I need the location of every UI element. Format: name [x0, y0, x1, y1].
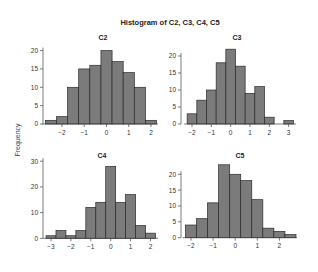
y-tick-label: 10	[169, 86, 177, 93]
x-tick-label: 1	[127, 129, 131, 136]
panel-c3: C305101520−2−10123	[169, 34, 296, 136]
histogram-bar	[264, 117, 274, 124]
x-tick-label: −2	[187, 242, 195, 249]
histogram-bar	[207, 90, 217, 124]
histogram-bar	[101, 51, 112, 124]
histogram-bar	[76, 231, 86, 239]
histogram-bar	[252, 200, 263, 238]
panel-c5: C505101520−2−1012	[169, 152, 297, 249]
x-tick-label: −1	[209, 242, 217, 249]
x-tick-label: 0	[229, 129, 233, 136]
histogram-bar	[146, 233, 156, 238]
y-tick-label: 20	[31, 47, 39, 54]
x-tick-label: −2	[67, 243, 75, 250]
histogram-bar	[241, 181, 252, 238]
x-tick-label: 2	[278, 242, 282, 249]
y-tick-label: 20	[169, 52, 177, 59]
y-tick-label: 10	[31, 84, 39, 91]
histogram-bar	[86, 207, 96, 238]
y-tick-label: 15	[169, 69, 177, 76]
y-tick-label: 10	[31, 209, 39, 216]
y-tick-label: 30	[31, 158, 39, 165]
y-tick-label: 0	[34, 235, 38, 242]
panel-title: C5	[236, 152, 245, 159]
x-tick-label: −1	[87, 243, 95, 250]
histogram-bar	[56, 231, 66, 239]
y-tick-label: 0	[172, 120, 176, 127]
x-tick-label: 2	[149, 129, 153, 136]
x-tick-label: −1	[81, 129, 89, 136]
histogram-bar	[197, 100, 207, 124]
histogram-bar	[96, 202, 106, 238]
histogram-bar	[284, 121, 294, 124]
x-tick-label: 0	[109, 243, 113, 250]
panel-c4: C40102030−3−2−1012	[31, 152, 158, 250]
histogram-bar	[79, 69, 90, 124]
histogram-bar	[185, 225, 196, 238]
histogram-grid: Histogram of C2, C3, C4, C5 Frequency C2…	[0, 0, 318, 272]
x-tick-label: 1	[255, 242, 259, 249]
histogram-bar	[274, 231, 285, 237]
histogram-bar	[219, 165, 230, 238]
figure-title: Histogram of C2, C3, C4, C5	[120, 18, 219, 27]
histogram-bar	[187, 114, 197, 124]
histogram-bar	[235, 66, 245, 124]
histogram-bar	[45, 120, 56, 124]
x-tick-label: 0	[233, 242, 237, 249]
y-tick-label: 0	[34, 120, 38, 127]
histogram-bar	[123, 73, 134, 124]
histogram-bar	[106, 166, 116, 238]
x-tick-label: 2	[268, 129, 272, 136]
histogram-bar	[245, 93, 255, 124]
panel-title: C2	[99, 34, 108, 41]
y-tick-label: 5	[172, 218, 176, 225]
histogram-bar	[66, 236, 76, 239]
histogram-bar	[145, 120, 156, 124]
histogram-bar	[285, 235, 296, 238]
histogram-bar	[68, 87, 79, 124]
histogram-bar	[90, 65, 101, 124]
y-tick-label: 5	[34, 102, 38, 109]
x-tick-label: 1	[248, 129, 252, 136]
x-tick-label: 0	[105, 129, 109, 136]
x-tick-label: −3	[47, 243, 55, 250]
histogram-bar	[230, 174, 241, 237]
y-tick-label: 15	[169, 187, 177, 194]
x-tick-label: −1	[208, 129, 216, 136]
x-tick-label: −2	[58, 129, 66, 136]
x-tick-label: 3	[287, 129, 291, 136]
y-tick-label: 5	[172, 103, 176, 110]
histogram-bar	[134, 87, 145, 124]
histogram-bar	[226, 49, 236, 124]
histogram-bar	[136, 225, 146, 238]
panel-title: C4	[98, 152, 107, 159]
histogram-bar	[112, 62, 123, 124]
histogram-bar	[208, 203, 219, 238]
histogram-bar	[116, 202, 126, 238]
y-tick-label: 20	[31, 183, 39, 190]
x-tick-label: 1	[129, 243, 133, 250]
histogram-figure: Histogram of C2, C3, C4, C5 Frequency C2…	[0, 0, 318, 272]
histogram-bar	[126, 195, 136, 239]
histogram-bar	[56, 117, 67, 124]
histogram-bar	[46, 236, 56, 239]
y-tick-label: 0	[172, 234, 176, 241]
y-tick-label: 20	[169, 171, 177, 178]
y-tick-label: 15	[31, 65, 39, 72]
histogram-bar	[197, 219, 208, 238]
histogram-bar	[216, 63, 226, 124]
panel-c2: C205101520−2−1012	[31, 34, 158, 136]
panel-title: C3	[233, 34, 242, 41]
histogram-bar	[255, 87, 265, 124]
histogram-bar	[263, 228, 274, 238]
x-tick-label: −2	[188, 129, 196, 136]
x-tick-label: 2	[149, 243, 153, 250]
y-tick-label: 10	[169, 202, 177, 209]
y-axis-label: Frequency	[14, 123, 22, 157]
